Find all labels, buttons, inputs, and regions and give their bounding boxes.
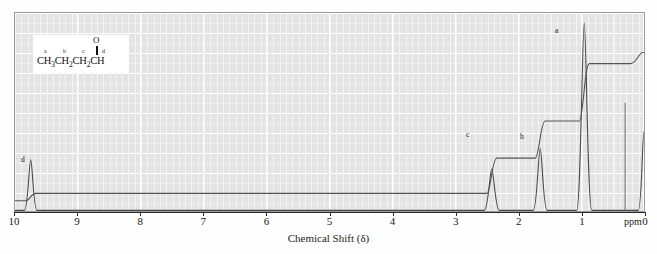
- x-axis-unit-label: ppm: [624, 216, 642, 227]
- atom-label-d: d: [102, 48, 105, 54]
- nmr-figure: O a b c d CH3CH2CH2CH dcba 109876543210 …: [0, 0, 657, 254]
- double-bond-icon: [96, 46, 98, 55]
- peak-label-a: a: [555, 27, 558, 35]
- integration-curve-line: [15, 52, 644, 200]
- peak-label-b: b: [520, 133, 524, 141]
- x-axis-tick-label: 10: [4, 215, 24, 227]
- peak-label-d: d: [21, 156, 25, 164]
- structure-formula: CH3CH2CH2CH: [37, 55, 104, 70]
- oxygen-atom-label: O: [93, 36, 100, 45]
- x-axis-tick-label: 7: [193, 215, 213, 227]
- x-axis-tick-label: 1: [572, 215, 592, 227]
- x-axis-tick-label: 3: [446, 215, 466, 227]
- x-axis-title: Chemical Shift (δ): [0, 232, 657, 244]
- atom-label-a: a: [44, 48, 47, 54]
- x-axis-tick-label: 2: [509, 215, 529, 227]
- atom-label-c: c: [82, 48, 85, 54]
- x-axis-tick-label: 5: [320, 215, 340, 227]
- x-axis-tick-label: 8: [130, 215, 150, 227]
- x-axis-tick-label: 6: [256, 215, 276, 227]
- atom-label-b: b: [63, 48, 66, 54]
- peak-label-c: c: [466, 131, 469, 139]
- molecular-structure-inset: O a b c d CH3CH2CH2CH: [33, 35, 129, 73]
- x-axis-tick-label: 9: [67, 215, 87, 227]
- x-axis-tick-label: 4: [383, 215, 403, 227]
- spectrum-plot-area: O a b c d CH3CH2CH2CH: [14, 12, 645, 212]
